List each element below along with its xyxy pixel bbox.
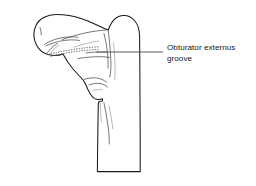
annotation-label-obturator-externus-groove: Obturator externus groove: [167, 43, 255, 64]
femur-figure: Obturator externus groove: [0, 0, 256, 186]
femur-illustration: [0, 0, 256, 186]
femur-outline: [34, 15, 140, 172]
